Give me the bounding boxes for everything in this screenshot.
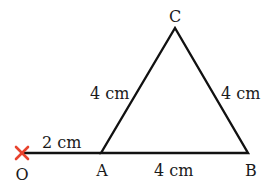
point-label-c: C <box>169 7 181 26</box>
point-label-a: A <box>95 161 108 180</box>
length-label-oa: 2 cm <box>42 133 81 152</box>
length-label-ab: 4 cm <box>154 161 193 180</box>
point-label-b: B <box>245 161 257 180</box>
length-label-bc: 4 cm <box>221 84 260 103</box>
triangle-diagram: C A B O 2 cm 4 cm 4 cm 4 cm <box>0 0 276 189</box>
point-label-o: O <box>15 165 28 184</box>
length-label-ac: 4 cm <box>90 84 129 103</box>
